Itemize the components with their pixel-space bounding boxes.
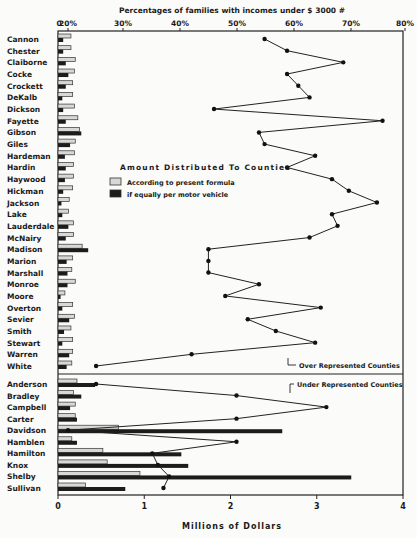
bar-per-motor-vehicle [58,155,65,159]
bar-present-formula [58,209,68,213]
bar-present-formula [58,221,74,225]
data-point [296,84,300,88]
county-label: Madison [7,245,42,254]
bar-per-motor-vehicle [58,342,62,346]
bottom-axis: 01234Millions of Dollars [55,495,406,531]
top-axis-title: Percentages of families with incomes und… [119,6,345,15]
bar-per-motor-vehicle [58,50,63,54]
county-label: Hamblen [7,438,45,447]
bar-present-formula [58,81,73,85]
chart-svg: Percentages of families with incomes und… [0,0,417,538]
bottom-axis-tick-label: 2 [228,502,234,511]
data-point [313,154,317,158]
county-label: Bradley [7,392,40,401]
data-point [246,317,250,321]
bar-present-formula [58,460,107,464]
bar-per-motor-vehicle [58,272,67,276]
county-label: Sullivan [7,484,41,493]
county-label: Cocke [7,70,32,79]
county-label: McNairy [7,234,42,243]
bar-per-motor-vehicle [58,108,63,112]
bar-present-formula [58,233,74,237]
county-label: Monroe [7,280,39,289]
bottom-axis-tick-label: 4 [400,502,406,511]
data-point [94,382,98,386]
bar-per-motor-vehicle [58,487,125,491]
county-label: DeKalb [7,93,38,102]
bar-present-formula [58,256,73,260]
county-label: Hickman [7,187,44,196]
bar-present-formula [58,314,74,318]
county-label: Lauderdale [7,222,54,231]
bar-per-motor-vehicle [58,237,66,241]
data-point [313,340,317,344]
bar-per-motor-vehicle [58,464,188,468]
data-point [262,142,266,146]
data-point [307,95,311,99]
data-point [206,270,210,274]
bar-present-formula [58,471,140,475]
bar-present-formula [58,104,74,108]
bar-present-formula [58,92,73,96]
county-label: Carter [7,415,34,424]
bar-per-motor-vehicle [58,383,95,387]
data-point [380,119,384,123]
data-point [212,107,216,111]
bar-present-formula [58,379,77,383]
bar-per-motor-vehicle [58,295,61,299]
bar-per-motor-vehicle [58,120,66,124]
bar-per-motor-vehicle [58,418,77,422]
county-label: Hardeman [7,152,51,161]
bar-present-formula [58,338,73,342]
bar-per-motor-vehicle [58,85,66,89]
bar-per-motor-vehicle [58,395,81,399]
county-label: Overton [7,304,41,313]
bottom-axis-title: Millions of Dollars [182,522,282,531]
bar-per-motor-vehicle [58,429,282,433]
bar-present-formula [58,291,65,295]
data-point [274,329,278,333]
data-point [341,60,345,64]
percentage-line [66,37,385,490]
legend: Amount Distributed To CountiesAccording … [110,163,291,199]
legend-label: if equally per motor vehicle [127,191,229,199]
data-point [335,224,339,228]
data-point [257,130,261,134]
county-label: Moore [7,292,34,301]
data-point [150,451,154,455]
data-point [206,259,210,263]
top-axis-tick-label: 20% [59,19,77,28]
county-label: Hamilton [7,449,45,458]
bar-per-motor-vehicle [58,213,62,217]
data-point [167,474,171,478]
data-point [324,405,328,409]
county-label: Fayette [7,117,39,126]
county-label: Smith [7,327,32,336]
top-axis-tick-label: 80% [396,19,414,28]
bar-present-formula [58,127,80,131]
bar-per-motor-vehicle [58,202,61,206]
bar-present-formula [58,244,82,248]
county-label: Sevier [7,315,34,324]
legend-title: Amount Distributed To Counties [120,163,291,172]
county-label: Claiborne [7,58,47,67]
bar-per-motor-vehicle [58,283,67,287]
bar-per-motor-vehicle [58,318,69,322]
top-axis-tick-label: 70% [342,19,360,28]
county-label: Marion [7,257,36,266]
bar-per-motor-vehicle [58,365,67,369]
bar-per-motor-vehicle [58,307,62,311]
bar-per-motor-vehicle [58,73,68,77]
county-label: Haywood [7,175,46,184]
bar-present-formula [58,279,75,283]
bar-present-formula [58,116,78,120]
bar-present-formula [58,57,75,61]
data-point [257,282,261,286]
data-point [262,37,266,41]
bottom-axis-tick-label: 3 [314,502,320,511]
data-point [161,486,165,490]
top-axis-tick-label: 50% [228,19,246,28]
bar-present-formula [58,391,74,395]
bar-per-motor-vehicle [58,260,67,264]
county-label: Gibson [7,128,36,137]
